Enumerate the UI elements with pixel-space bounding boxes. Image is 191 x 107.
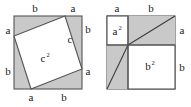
left-edge-label-right-top: b xyxy=(85,23,91,35)
left-edge-label-right-bottom: a xyxy=(86,65,91,77)
left-edge-label-top-left: b xyxy=(32,2,38,14)
pythagorean-proof-figure: b a a b b a a b c c 2 xyxy=(0,0,191,107)
right-a-squared-label: a xyxy=(113,25,118,37)
right-a-squared-exponent: 2 xyxy=(118,24,121,31)
left-edge-label-left-bottom: b xyxy=(5,65,11,77)
left-edge-label-left-top: a xyxy=(6,24,11,36)
right-edge-label-right-top: a xyxy=(180,24,185,36)
right-edge-label-top-right: b xyxy=(148,2,154,14)
left-edge-label-top-right: a xyxy=(71,2,76,14)
left-edge-label-bottom-right: b xyxy=(61,91,67,103)
left-inner-area-exponent: 2 xyxy=(46,51,49,58)
left-inner-area-label: c xyxy=(41,52,46,64)
right-b-squared-exponent: 2 xyxy=(151,59,154,66)
right-b-squared-square xyxy=(128,45,175,89)
right-b-squared-label: b xyxy=(145,60,151,72)
right-diagram-group: a b a b a 2 b 2 xyxy=(107,2,185,89)
left-hypotenuse-label: c xyxy=(68,33,73,45)
right-edge-label-top-left: a xyxy=(115,2,120,14)
left-edge-label-bottom-left: a xyxy=(29,91,34,103)
left-diagram-group: b a a b b a a b c c 2 xyxy=(5,2,91,103)
figure-canvas: b a a b b a a b c c 2 xyxy=(0,0,191,107)
right-edge-label-right-bottom: b xyxy=(179,61,185,73)
